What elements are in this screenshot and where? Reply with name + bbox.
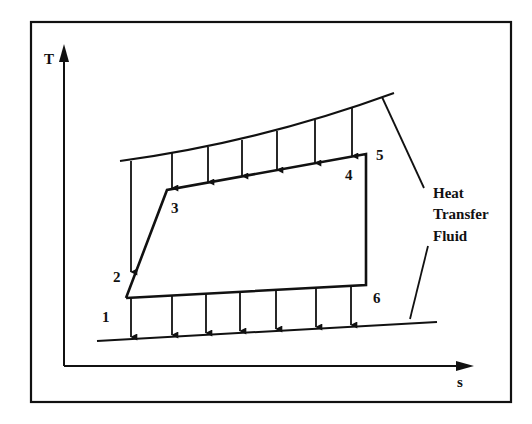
state-label-1: 1 xyxy=(102,309,110,325)
axes: T s xyxy=(44,44,474,390)
state-label-2: 2 xyxy=(113,269,121,285)
cold-fluid-line xyxy=(97,322,437,341)
cycle-path xyxy=(126,154,366,298)
state-label-4: 4 xyxy=(345,167,353,183)
x-axis-label: s xyxy=(457,374,463,390)
leader-line-hot xyxy=(382,97,424,188)
annotation-line-fluid: Fluid xyxy=(433,228,468,244)
state-label-5: 5 xyxy=(376,147,384,163)
annotation-line-heat: Heat xyxy=(433,185,464,201)
ts-diagram: T s 1 2 3 4 5 6 Heat Transfer Fluid xyxy=(0,0,532,424)
annotation-line-transfer: Transfer xyxy=(433,206,489,222)
state-label-3: 3 xyxy=(171,200,179,216)
y-axis-arrowhead-icon xyxy=(59,44,69,62)
state-label-6: 6 xyxy=(373,290,381,306)
leader-line-cold xyxy=(410,246,428,319)
x-axis-arrowhead-icon xyxy=(456,361,474,371)
y-axis-label: T xyxy=(44,51,54,67)
